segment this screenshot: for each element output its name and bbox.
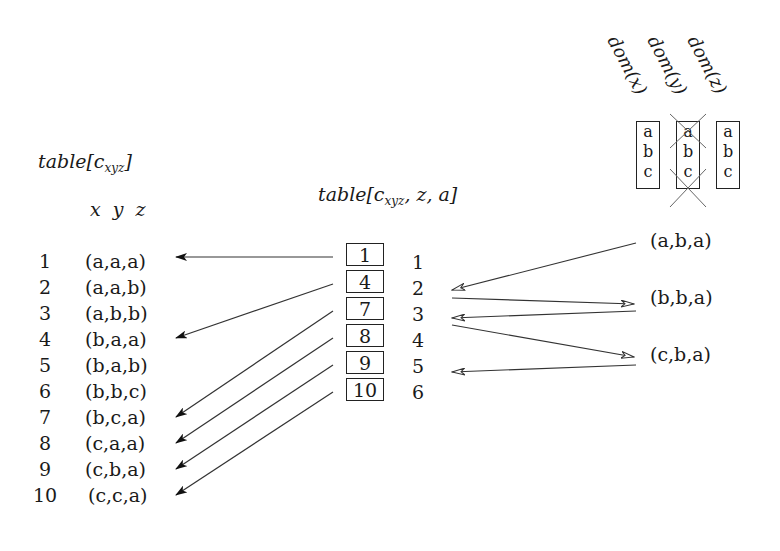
crossed-values bbox=[670, 114, 706, 207]
arrow-icon bbox=[176, 338, 333, 443]
arrow-icon bbox=[452, 243, 636, 290]
arrow-icon bbox=[452, 325, 634, 357]
arrow-layer bbox=[0, 0, 780, 551]
search-arrows bbox=[452, 243, 636, 372]
arrow-icon bbox=[176, 365, 333, 469]
arrow-icon bbox=[176, 311, 333, 417]
arrow-icon bbox=[452, 365, 636, 372]
arrow-icon bbox=[176, 284, 333, 338]
arrow-icon bbox=[452, 298, 634, 304]
index-arrows bbox=[176, 257, 333, 495]
arrow-icon bbox=[176, 392, 333, 495]
arrow-icon bbox=[452, 311, 636, 318]
